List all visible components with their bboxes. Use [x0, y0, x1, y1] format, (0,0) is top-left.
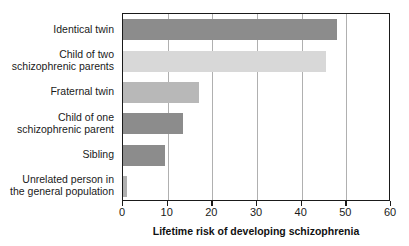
x-axis-tick-labels: 0102030405060	[0, 205, 409, 221]
x-tick-label: 10	[161, 205, 173, 219]
bar-chart: Identical twinChild of two schizophrenic…	[0, 0, 409, 246]
x-tick-label: 50	[339, 205, 351, 219]
x-tick-label: 60	[384, 205, 396, 219]
category-label: Sibling	[0, 148, 114, 160]
gridline-40	[302, 14, 303, 200]
bar	[123, 145, 165, 166]
gridline-10	[168, 14, 169, 200]
x-axis-title: Lifetime risk of developing schizophreni…	[122, 225, 390, 237]
gridline-50	[346, 14, 347, 200]
category-label: Child of one schizophrenic parent	[0, 111, 114, 135]
gridline-20	[212, 14, 213, 200]
category-axis-labels: Identical twinChild of two schizophrenic…	[0, 13, 118, 201]
x-tick-label: 20	[205, 205, 217, 219]
category-label: Fraternal twin	[0, 85, 114, 97]
bar	[123, 51, 326, 72]
plot-inner	[123, 14, 389, 200]
x-tick-label: 0	[119, 205, 125, 219]
plot-area	[122, 13, 390, 201]
gridline-30	[257, 14, 258, 200]
bar	[123, 176, 127, 197]
bar	[123, 19, 337, 40]
category-label: Unrelated person in the general populati…	[0, 173, 114, 197]
category-label: Child of two schizophrenic parents	[0, 48, 114, 72]
bar	[123, 82, 199, 103]
category-label: Identical twin	[0, 23, 114, 35]
x-tick-label: 40	[295, 205, 307, 219]
bar	[123, 113, 183, 134]
x-tick-label: 30	[250, 205, 262, 219]
